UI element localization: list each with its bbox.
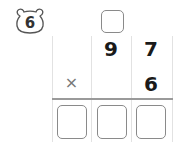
multiplier-ones: 6 xyxy=(131,73,171,95)
problem-number-badge: 6 xyxy=(14,7,46,34)
multiplicand-ones: 7 xyxy=(131,38,171,60)
answer-box-tens[interactable] xyxy=(97,105,127,139)
carry-box[interactable] xyxy=(101,10,124,33)
answer-rule xyxy=(52,98,173,100)
multiplicand-tens: 9 xyxy=(91,38,131,60)
answer-box-hundreds[interactable] xyxy=(57,105,87,139)
problem-number: 6 xyxy=(14,14,46,32)
times-sign: × xyxy=(52,74,91,92)
grid-line-right xyxy=(172,36,173,142)
answer-box-ones[interactable] xyxy=(136,105,166,139)
